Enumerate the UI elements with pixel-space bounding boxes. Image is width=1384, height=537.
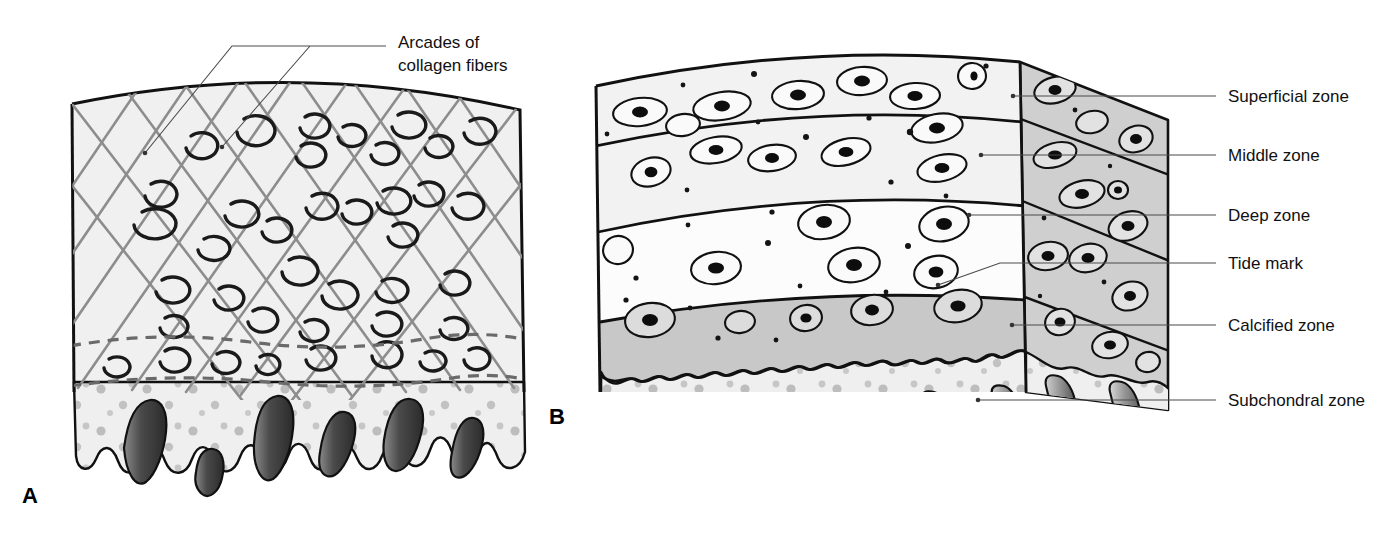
panel-letter-b: B [549,404,565,429]
middle-zone-leader-dot [979,153,984,158]
deep-zone-leader-dot [967,213,972,218]
figure-root: Arcades of collagen fibers A [0,0,1384,537]
tide-mark-label: Tide mark [1228,254,1303,273]
deep-zone-label: Deep zone [1228,206,1310,225]
calcified-zone-leader-dot [1010,323,1015,328]
panel-a: Arcades of collagen fibers A [0,33,668,508]
arcades-label-line2: collagen fibers [398,56,508,75]
subchondral-zone-leader-dot [976,398,981,403]
superficial-zone-label: Superficial zone [1228,87,1349,106]
panel-b: B [549,55,1172,456]
panel-b-bone-fingers [636,385,1023,452]
panel-a-left-edge [72,104,74,392]
tide-mark-leader-dot [936,283,941,288]
arcades-leader-dot-1 [143,151,148,156]
panel-letter-a: A [22,483,38,508]
calcified-zone-label: Calcified zone [1228,316,1335,335]
arcades-leader-dot-2 [220,145,225,150]
middle-zone-label: Middle zone [1228,146,1320,165]
cartilage-figure: Arcades of collagen fibers A [0,0,1384,537]
subchondral-zone-label: Subchondral zone [1228,391,1365,410]
arcades-label-line1: Arcades of [398,33,480,52]
superficial-zone-leader-dot [1011,94,1016,99]
